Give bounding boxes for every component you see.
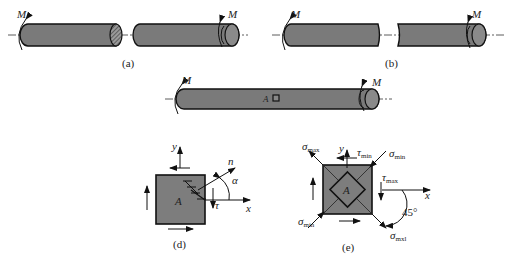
tau-max-label-right: τmax [382,171,398,185]
angle-label: α [232,174,238,186]
panel-d: y x τ n α A (d) [147,140,251,251]
axis-y-label: y [338,142,344,154]
angle-label: 45° [402,206,417,218]
moment-label: M [227,8,238,20]
shaft-left-segment [284,24,380,46]
sigma-mxl-label-br: σmxl [390,229,406,243]
moment-label: M [371,76,382,88]
moment-label: M [290,8,301,20]
sigma-min-label-tr: σmin [389,147,406,161]
axis-x-label: x [245,202,251,214]
axis-y-label: y [171,140,177,152]
axis-x-label: x [424,189,430,201]
sigma-min-arrow-tr [370,151,386,167]
torsion-diagram: M M (a) M M (b) A M M y x [0,0,516,263]
panel-e: A y x 45° σmax τmin σmin τmax σmin σmxl … [298,140,430,254]
normal-label: n [228,155,234,167]
panel-c: A M M [165,74,392,114]
sigma-max-arrow-br [372,214,386,228]
shaft-end-face [225,24,239,46]
point-label: A [174,195,182,207]
moment-label: M [471,8,482,20]
shaft-left-segment [20,24,116,46]
point-label: A [342,184,350,196]
shear-label: τ [215,199,220,211]
cut-section-hatched [110,24,122,46]
moment-label: M [181,74,192,86]
element-a-marker [273,95,279,101]
shaft-end-face [472,24,486,46]
caption-d: (d) [173,238,186,251]
tau-min-label-top: τmin [357,146,372,160]
angle-arc [220,178,229,200]
caption-e: (e) [342,241,355,254]
sigma-max-label-tl: σmax [302,140,320,154]
moment-label: M [16,8,27,20]
panel-a: M M (a) [8,8,248,70]
caption-a: (a) [122,57,135,70]
shaft-end-face [365,89,379,109]
caption-b: (b) [385,57,398,70]
panel-b: M M (b) [272,8,506,70]
sigma-min-label-bl: σmin [298,215,315,229]
point-label: A [262,94,269,104]
